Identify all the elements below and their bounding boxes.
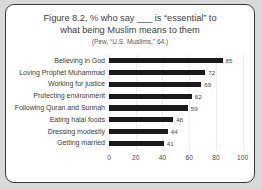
bar	[109, 70, 205, 75]
bar-category-label: Following Quran and Sunnah	[6, 104, 109, 112]
bar-row: Following Quran and Sunnah59	[6, 102, 254, 114]
x-axis-tick-label: 20	[132, 154, 139, 161]
bar-track: 44	[109, 126, 254, 138]
bar-value-label: 44	[171, 128, 178, 135]
chart-frame: Figure 8.2, % who say ___ is “essential”…	[5, 4, 255, 183]
bar-track: 85	[109, 55, 254, 67]
bar-value-label: 69	[204, 81, 211, 88]
bar-row: Loving Prophet Muhammad72	[6, 67, 254, 79]
bar-value-label: 72	[208, 69, 215, 76]
chart-subtitle: (Pew, “U.S. Muslims,” 64.)	[6, 37, 254, 47]
bar-category-label: Protecting environment	[6, 92, 109, 100]
bar-row: Protecting environment62	[6, 90, 254, 102]
x-axis-tick-label: 80	[212, 154, 219, 161]
bar-track: 69	[109, 79, 254, 91]
chart-title-line-2: what being Muslim means to them	[6, 24, 254, 36]
bar	[109, 105, 188, 110]
chart-title-line-1: Figure 8.2, % who say ___ is “essential”…	[6, 12, 254, 24]
bar-category-label: Loving Prophet Muhammad	[6, 69, 109, 77]
chart-title-block: Figure 8.2, % who say ___ is “essential”…	[6, 5, 254, 47]
bar	[109, 129, 168, 134]
bar	[109, 82, 201, 87]
chart-container: Figure 8.2, % who say ___ is “essential”…	[6, 5, 254, 182]
bar-category-label: Getting married	[6, 139, 109, 147]
x-axis-tick-label: 60	[186, 154, 193, 161]
bar	[109, 94, 192, 99]
bar-row: Eating halal foods48	[6, 114, 254, 126]
bar-value-label: 59	[191, 105, 198, 112]
bar-value-label: 62	[195, 93, 202, 100]
bar-row: Dressing modestly44	[6, 126, 254, 138]
bar-category-label: Believing in God	[6, 57, 109, 65]
bar-row: Getting married41	[6, 138, 254, 150]
bar-list: Believing in God85Loving Prophet Muhamma…	[6, 55, 254, 149]
bar-row: Believing in God85	[6, 55, 254, 67]
bar-track: 72	[109, 67, 254, 79]
bar-category-label: Dressing modestly	[6, 128, 109, 136]
x-axis-tick-label: 0	[107, 154, 111, 161]
bar-track: 62	[109, 90, 254, 102]
x-axis-tick-label: 100	[237, 154, 248, 161]
x-axis-tick-label: 40	[159, 154, 166, 161]
bar-category-label: Eating halal foods	[6, 116, 109, 124]
bar-value-label: 41	[167, 140, 174, 147]
bar	[109, 58, 223, 63]
bar-row: Working for justice69	[6, 79, 254, 91]
bar-category-label: Working for justice	[6, 80, 109, 88]
bar-value-label: 85	[226, 57, 233, 64]
bar-track: 41	[109, 138, 254, 150]
plot-area: Believing in God85Loving Prophet Muhamma…	[6, 55, 254, 182]
x-axis: 020406080100	[109, 152, 254, 166]
bar-track: 59	[109, 102, 254, 114]
bar-track: 48	[109, 114, 254, 126]
bar	[109, 141, 164, 146]
bar-value-label: 48	[176, 116, 183, 123]
bar	[109, 117, 173, 122]
